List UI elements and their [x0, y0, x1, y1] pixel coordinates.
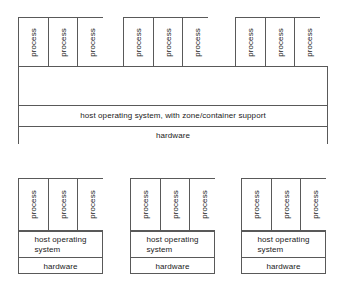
separate-system-2: process process process host operating s…: [130, 178, 215, 274]
process-box: process: [242, 179, 272, 230]
process-box: process: [161, 179, 191, 230]
os-virtualization-diagram: container container container host opera…: [0, 0, 346, 296]
process-box: process: [183, 18, 212, 66]
host-os-label-1: host operating system: [34, 235, 86, 254]
hardware-row-3: hardware: [242, 257, 325, 275]
process-group-top-1: process process process: [18, 17, 103, 67]
process-box: process: [154, 18, 184, 66]
process-group-bottom-2: process process process: [130, 178, 215, 231]
process-label: process: [134, 28, 143, 57]
separate-system-3: process process process host operating s…: [241, 178, 326, 274]
process-label: process: [171, 190, 180, 219]
hardware-row-2: hardware: [131, 257, 214, 275]
process-label: process: [252, 190, 261, 219]
host-os-label-3: host operating system: [257, 235, 309, 254]
host-os-row-1: host operating system: [19, 231, 102, 257]
process-box: process: [49, 18, 79, 66]
process-label: process: [193, 28, 202, 57]
process-label: process: [141, 190, 150, 219]
process-label: process: [305, 28, 314, 57]
shared-host-os-row: host operating system, with zone/contain…: [19, 105, 327, 126]
process-group-bottom-1: process process process: [18, 178, 103, 231]
shared-hardware-row: hardware: [19, 126, 327, 144]
process-label: process: [282, 190, 291, 219]
host-os-row-3: host operating system: [242, 231, 325, 257]
process-label: process: [276, 28, 285, 57]
process-label: process: [311, 190, 320, 219]
process-label: process: [29, 190, 38, 219]
process-box: process: [19, 179, 49, 230]
process-group-bottom-3: process process process: [241, 178, 326, 231]
process-box: process: [301, 179, 330, 230]
process-label: process: [29, 28, 38, 57]
process-box: process: [131, 179, 161, 230]
process-box: process: [78, 179, 107, 230]
shared-host-system-shell: host operating system, with zone/contain…: [18, 66, 328, 144]
host-os-label-2: host operating system: [146, 235, 198, 254]
process-box: process: [295, 18, 324, 66]
hardware-label-1: hardware: [43, 262, 77, 272]
process-label: process: [59, 190, 68, 219]
shared-host-os-label: host operating system, with zone/contain…: [80, 111, 266, 121]
process-box: process: [49, 179, 79, 230]
process-box: process: [266, 18, 296, 66]
process-label: process: [164, 28, 173, 57]
process-label: process: [246, 28, 255, 57]
process-label: process: [200, 190, 209, 219]
process-box: process: [236, 18, 266, 66]
process-group-top-3: process process process: [235, 17, 320, 67]
process-box: process: [272, 179, 302, 230]
host-os-row-2: host operating system: [131, 231, 214, 257]
process-box: process: [19, 18, 49, 66]
hardware-label-2: hardware: [155, 262, 189, 272]
shared-hardware-label: hardware: [156, 131, 190, 141]
separate-system-1: process process process host operating s…: [18, 178, 103, 274]
process-box: process: [124, 18, 154, 66]
hardware-row-1: hardware: [19, 257, 102, 275]
process-box: process: [190, 179, 219, 230]
process-group-top-2: process process process: [123, 17, 208, 67]
process-label: process: [59, 28, 68, 57]
process-label: process: [88, 190, 97, 219]
process-box: process: [78, 18, 107, 66]
hardware-label-3: hardware: [266, 262, 300, 272]
process-label: process: [88, 28, 97, 57]
